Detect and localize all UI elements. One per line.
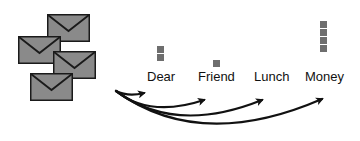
arrows [0, 0, 360, 141]
bag-of-words-diagram: Dear Friend Lunch Money [0, 0, 360, 141]
